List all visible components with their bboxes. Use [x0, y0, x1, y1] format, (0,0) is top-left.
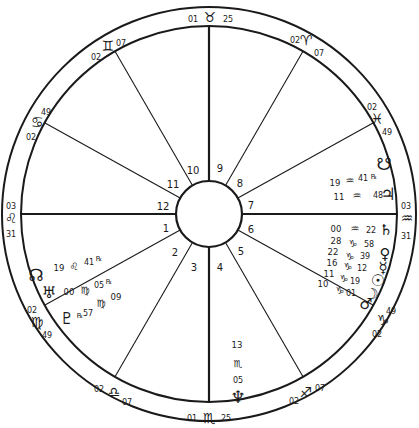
cusp-minute: 07: [116, 39, 126, 48]
planet-pluto: ♇09♍57℞: [60, 292, 122, 328]
scorpio-sign-icon: ♏: [203, 410, 216, 426]
planet-mars: ♂10♑01: [318, 279, 373, 313]
planet-degree: 19: [330, 178, 341, 188]
planet-sign-icon: ♌: [70, 261, 79, 272]
planet-minute: 41: [84, 258, 94, 267]
cusp-minute: 49: [382, 128, 392, 137]
planet-sign-icon: ♒: [351, 223, 360, 234]
center-hub: [176, 181, 242, 247]
planet-minute: 05: [94, 281, 104, 290]
cusp-degree: 02: [289, 397, 299, 406]
house-number-6: 6: [248, 224, 254, 235]
cusp-line-gemini: [115, 51, 193, 185]
cusp-label-sagittarius: ♐0207: [289, 384, 325, 406]
planet-minute: 57: [83, 309, 93, 318]
cusp-minute: 49: [42, 331, 52, 340]
house-number-5: 5: [238, 246, 244, 257]
cusp-degree: 01: [188, 15, 198, 24]
planet-neptune: ♆13♏05: [230, 340, 245, 407]
cusp-degree: 02: [26, 133, 36, 142]
house-number-2: 2: [172, 247, 178, 258]
house-number-3: 3: [191, 262, 197, 273]
cusp-minute: 31: [6, 230, 16, 239]
saturn-icon: ♄: [379, 221, 392, 239]
cusp-label-taurus: ♉0125: [188, 9, 233, 25]
planet-minute: 12: [357, 264, 367, 273]
planet-sign-icon: ♑: [344, 261, 353, 272]
cusp-label-scorpio: ♏0125: [187, 410, 231, 426]
planet-south-node: ☋: [376, 154, 391, 174]
cusp-minute: 49: [386, 307, 396, 316]
cusp-minute: 07: [315, 384, 325, 393]
cusp-line-libra: [115, 243, 193, 377]
cusp-label-aquarius: ♒0331: [401, 202, 414, 241]
house-number-9: 9: [217, 163, 223, 174]
libra-sign-icon: ♎: [108, 384, 121, 400]
uranus-icon: ♅: [42, 283, 56, 302]
cusp-line-aries: [226, 51, 304, 185]
planet-minute: 48: [373, 191, 383, 200]
planet-degree: 00: [331, 224, 342, 234]
cusp-minute: 49: [41, 108, 51, 117]
cusp-line-cancer: [45, 123, 181, 198]
planet-minute: 41: [358, 174, 368, 183]
planet-retro-south-node-label: 19♒41℞: [330, 173, 378, 188]
planet-sign-icon: ♒: [346, 175, 355, 186]
planet-degree: 16: [327, 258, 338, 268]
cusp-label-libra: ♎0207: [94, 384, 132, 407]
neptune-icon: ♆: [230, 387, 245, 407]
cusp-degree: 02: [367, 103, 377, 112]
planet-minute: 01: [346, 289, 356, 298]
planet-sign-icon: ♑: [349, 238, 358, 249]
aries-sign-icon: ♈: [300, 32, 313, 48]
planet-jupiter: ♃11♒48: [334, 184, 396, 204]
planet-degree: 11: [324, 269, 335, 279]
house-number-8: 8: [237, 178, 243, 189]
house-number-12: 12: [157, 201, 170, 212]
cusp-line-pisces: [238, 123, 374, 198]
planet-minute: 22: [366, 226, 376, 235]
planet-north-node: ☊19♌41℞: [28, 255, 102, 285]
south-node-icon: ☋: [376, 154, 391, 174]
planet-degree: 28: [331, 236, 342, 246]
hub-circle: [176, 181, 242, 247]
retrograde-icon: ℞: [106, 278, 112, 286]
cusp-minute: 25: [223, 15, 233, 24]
retrograde-icon: ℞: [96, 255, 102, 263]
cusp-degree: 02: [94, 385, 104, 394]
planet-minute: 39: [360, 252, 370, 261]
house-number-4: 4: [217, 262, 223, 273]
planet-degree: 13: [232, 340, 243, 350]
planet-degree: 10: [318, 279, 329, 289]
pluto-icon: ♇: [60, 309, 74, 328]
planet-degree: 00: [64, 287, 75, 297]
cusp-degree: 03: [6, 202, 16, 211]
cusp-degree: 01: [187, 414, 197, 423]
cusp-label-pisces: ♓0249: [367, 103, 392, 137]
aquarius-sign-icon: ♒: [401, 210, 414, 226]
taurus-sign-icon: ♉: [204, 9, 217, 25]
planet-sign-icon: ♍: [97, 298, 106, 309]
planet-sign-icon: ♒: [353, 190, 362, 201]
cusp-minute: 31: [401, 232, 411, 241]
planet-minute: 19: [350, 277, 360, 286]
pisces-sign-icon: ♓: [371, 111, 384, 127]
cusp-minute: 07: [122, 398, 132, 407]
planet-degree: 22: [328, 247, 339, 257]
cusp-degree: 02: [27, 306, 37, 315]
planet-minute: 05: [233, 376, 243, 385]
house-number-1: 1: [163, 223, 169, 234]
cusp-label-leo: ♌0331: [5, 202, 18, 239]
cusp-degree: 03: [401, 202, 411, 211]
cusp-degree: 02: [372, 330, 382, 339]
cusp-degree: 02: [91, 53, 101, 62]
cusp-line-sagittarius: [226, 243, 304, 377]
retrograde-icon: ℞: [77, 312, 83, 320]
planet-sign-icon: ♑: [340, 273, 349, 284]
planet-sign-icon: ♑: [336, 285, 345, 296]
planet-sign-icon: ♏: [234, 358, 243, 369]
cusp-degree: 02: [290, 36, 300, 45]
house-number-10: 10: [187, 165, 200, 176]
planet-degree: 19: [54, 263, 65, 273]
retrograde-icon: ℞: [371, 173, 377, 181]
